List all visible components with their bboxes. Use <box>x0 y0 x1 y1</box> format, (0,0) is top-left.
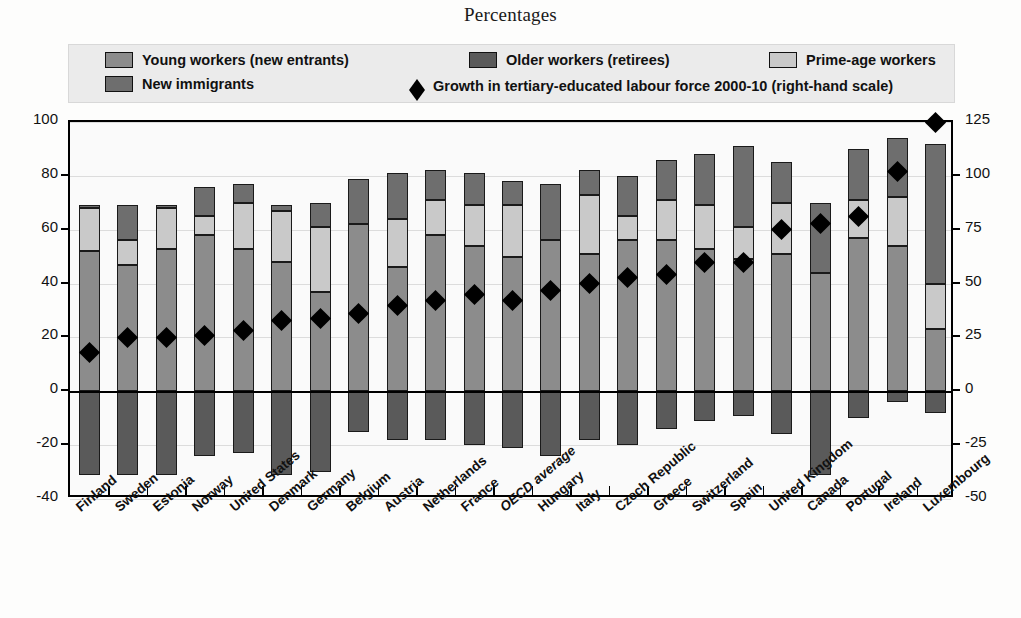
bar-segment <box>464 246 485 391</box>
bar-segment <box>310 227 331 292</box>
y-tick-label-right: -50 <box>965 487 1017 504</box>
bar-segment <box>887 197 908 245</box>
bar-group[interactable] <box>464 122 485 499</box>
bar-segment-negative <box>387 391 408 439</box>
bar-segment-negative <box>771 391 792 434</box>
bar-group[interactable] <box>194 122 215 499</box>
bar-group[interactable] <box>694 122 715 499</box>
bar-segment <box>387 219 408 267</box>
bar-segment-negative <box>656 391 677 429</box>
bar-segment <box>310 203 331 227</box>
y-tick-label-left: 0 <box>6 379 58 396</box>
y-tick-label-right: 125 <box>965 110 1017 127</box>
diamond-marker-icon <box>409 71 425 90</box>
legend-swatch-icon <box>769 52 797 68</box>
bar-segment <box>194 187 215 217</box>
bar-segment <box>233 184 254 203</box>
bar-segment <box>233 203 254 249</box>
bar-segment <box>271 211 292 262</box>
bar-segment <box>156 208 177 248</box>
bar-segment <box>617 240 638 391</box>
y-axis-tick-left <box>61 282 68 284</box>
bar-segment <box>694 154 715 205</box>
bar-segment <box>925 329 946 391</box>
bar-group[interactable] <box>540 122 561 499</box>
bar-segment-negative <box>310 391 331 472</box>
bar-segment <box>425 235 446 391</box>
bar-group[interactable] <box>579 122 600 499</box>
bar-segment <box>387 267 408 391</box>
bar-segment <box>579 195 600 254</box>
bar-segment-negative <box>79 391 100 474</box>
bar-group[interactable] <box>117 122 138 499</box>
bar-segment-negative <box>733 391 754 415</box>
bar-segment <box>117 205 138 240</box>
y-axis-tick-right <box>953 443 960 445</box>
bar-segment <box>656 160 677 200</box>
y-tick-label-right: -25 <box>965 433 1017 450</box>
y-axis-tick-right <box>953 228 960 230</box>
bar-group[interactable] <box>810 122 831 499</box>
y-tick-label-left: 100 <box>6 110 58 127</box>
legend-label: Older workers (retirees) <box>506 52 670 68</box>
y-axis-tick-left <box>61 228 68 230</box>
y-axis-tick-right <box>953 389 960 391</box>
y-tick-label-right: 75 <box>965 218 1017 235</box>
bar-segment <box>79 208 100 251</box>
bar-segment <box>425 200 446 235</box>
bar-segment <box>79 251 100 391</box>
bar-group[interactable] <box>617 122 638 499</box>
y-tick-label-left: 60 <box>6 218 58 235</box>
y-tick-label-left: -20 <box>6 433 58 450</box>
chart-root: Percentages Young workers (new entrants)… <box>0 0 1021 618</box>
bar-segment <box>117 240 138 264</box>
legend-older-workers[interactable]: Older workers (retirees) <box>469 52 670 68</box>
bar-segment <box>502 181 523 205</box>
bar-group[interactable] <box>156 122 177 499</box>
bar-segment-negative <box>117 391 138 474</box>
y-tick-label-left: 20 <box>6 325 58 342</box>
legend-young-workers[interactable]: Young workers (new entrants) <box>105 52 349 68</box>
legend-new-immigrants[interactable]: New immigrants <box>105 76 254 92</box>
bar-segment <box>540 184 561 241</box>
bar-segment-negative <box>348 391 369 431</box>
bar-segment-negative <box>425 391 446 439</box>
x-axis-tick <box>609 486 611 495</box>
bar-group[interactable] <box>925 122 946 499</box>
bar-group[interactable] <box>233 122 254 499</box>
x-axis-labels: FinlandSwedenEstoniaNorwayUnited StatesD… <box>0 497 1021 618</box>
bar-segment <box>656 200 677 240</box>
bar-segment <box>194 216 215 235</box>
bar-segment <box>502 257 523 392</box>
bar-segment <box>771 162 792 202</box>
bar-group[interactable] <box>733 122 754 499</box>
bar-segment <box>617 216 638 240</box>
bar-group[interactable] <box>79 122 100 499</box>
bar-group[interactable] <box>656 122 677 499</box>
bar-segment-negative <box>617 391 638 445</box>
bar-segment-negative <box>233 391 254 453</box>
chart-legend: Young workers (new entrants)Older worker… <box>68 44 955 103</box>
bar-segment <box>579 170 600 194</box>
legend-growth-tertiary[interactable]: Growth in tertiary-educated labour force… <box>409 76 893 95</box>
bar-segment <box>156 249 177 392</box>
y-tick-label-left: -40 <box>6 487 58 504</box>
y-tick-label-left: 40 <box>6 272 58 289</box>
bar-segment <box>387 173 408 219</box>
bar-segment <box>848 238 869 391</box>
y-tick-label-right: 0 <box>965 379 1017 396</box>
bar-segment <box>502 205 523 256</box>
bar-group[interactable] <box>771 122 792 499</box>
legend-prime-age-workers[interactable]: Prime-age workers <box>769 52 936 68</box>
legend-swatch-icon <box>469 52 497 68</box>
legend-label: Prime-age workers <box>806 52 936 68</box>
bar-segment-negative <box>194 391 215 456</box>
bar-segment <box>887 246 908 391</box>
bar-segment-negative <box>156 391 177 474</box>
legend-label: Growth in tertiary-educated labour force… <box>433 78 893 94</box>
legend-swatch-icon <box>105 76 133 92</box>
bar-segment <box>694 205 715 248</box>
bar-segment <box>194 235 215 391</box>
y-tick-label-left: 80 <box>6 164 58 181</box>
page-title: Percentages <box>0 4 1021 26</box>
